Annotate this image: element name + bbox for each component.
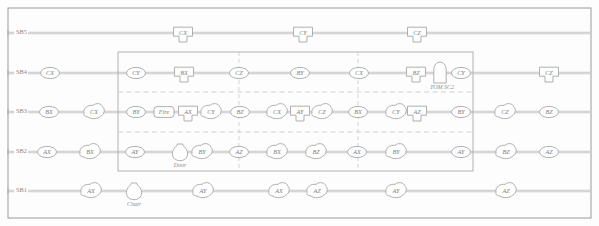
node-label-SB4-5: CX xyxy=(355,69,363,76)
node-label-SB3-12: AZ xyxy=(412,108,421,115)
node-label-SB5-0: CX xyxy=(179,29,187,36)
schematic-svg: CXCYCZCXCYBXCZBYCXBZTOM SC2CYCZBXCXBYFir… xyxy=(0,0,599,226)
row-label-SB1: SB1 xyxy=(16,186,27,193)
node-label-SB2-12: AZ xyxy=(544,148,553,155)
node-label-SB2-11: BZ xyxy=(502,148,510,155)
row-label-SB3: SB3 xyxy=(16,107,27,114)
node-label-SB1-2: AY xyxy=(199,187,207,194)
node-label-SB3-6: BZ xyxy=(236,108,244,115)
node-label-SB3-4: AX xyxy=(183,108,192,115)
node-label-SB1-0: AX xyxy=(86,187,95,194)
row-label-SB2: SB2 xyxy=(16,147,27,154)
node-label-SB2-9: BY xyxy=(392,148,400,155)
node-label-SB4-0: CX xyxy=(46,69,54,76)
node-label-SB3-13: BY xyxy=(457,108,465,115)
node-label-SB4-4: BY xyxy=(296,69,304,76)
node-label-SB3-15: BZ xyxy=(545,108,553,115)
node-label-SB1-4: AZ xyxy=(312,187,321,194)
node-label-SB1-5: AY xyxy=(392,187,400,194)
node-caption-SB4-7: TOM SC2 xyxy=(430,84,454,90)
node-label-SB2-5: AZ xyxy=(234,148,243,155)
node-label-SB2-8: AX xyxy=(352,148,361,155)
row-label-SB5: SB5 xyxy=(16,28,27,35)
node-label-SB3-1: CX xyxy=(90,108,98,115)
node-SB1-1-chair[interactable] xyxy=(126,183,141,200)
node-SB4-7-tom-sc2[interactable] xyxy=(434,62,446,83)
node-label-SB1-6: AZ xyxy=(501,187,510,194)
node-label-SB3-0: BX xyxy=(45,108,53,115)
node-label-SB4-6: BZ xyxy=(412,69,420,76)
node-label-SB1-3: AX xyxy=(274,187,283,194)
node-label-SB3-5: CY xyxy=(207,108,215,115)
node-label-SB4-8: CY xyxy=(457,69,465,76)
node-label-SB3-11: CY xyxy=(392,108,400,115)
node-label-SB4-3: CZ xyxy=(235,69,243,76)
node-label-SB2-1: BX xyxy=(86,148,94,155)
node-label-SB2-6: BX xyxy=(273,148,281,155)
node-label-SB4-1: CY xyxy=(132,69,140,76)
node-label-SB5-2: CZ xyxy=(413,29,421,36)
node-label-SB2-2: AY xyxy=(131,148,139,155)
node-label-SB3-10: BX xyxy=(354,108,362,115)
node-SB2-3-door[interactable] xyxy=(172,144,187,161)
node-caption-SB2-3: Door xyxy=(173,162,187,168)
node-label-SB3-8: AY xyxy=(296,108,304,115)
diagram-canvas: CXCYCZCXCYBXCZBYCXBZTOM SC2CYCZBXCXBYFir… xyxy=(0,0,599,226)
node-label-SB2-0: AX xyxy=(42,148,51,155)
node-label-SB3-9: CZ xyxy=(318,108,326,115)
node-label-SB2-10: AY xyxy=(457,148,465,155)
node-label-SB3-7: CX xyxy=(273,108,281,115)
row-label-SB4: SB4 xyxy=(16,68,28,75)
node-label-SB5-1: CY xyxy=(299,29,307,36)
node-label-SB3-14: CZ xyxy=(501,108,509,115)
nodes-group: CXCYCZCXCYBXCZBYCXBZTOM SC2CYCZBXCXBYFir… xyxy=(38,27,559,207)
node-caption-SB1-1: Chair xyxy=(127,201,142,207)
node-label-SB4-9: CZ xyxy=(545,69,553,76)
node-label-SB4-2: BX xyxy=(180,69,188,76)
node-label-SB2-7: BZ xyxy=(312,148,320,155)
node-label-SB3-2: BY xyxy=(132,108,140,115)
node-label-SB3-3: Fire xyxy=(158,108,170,115)
node-label-SB2-4: BY xyxy=(198,148,206,155)
